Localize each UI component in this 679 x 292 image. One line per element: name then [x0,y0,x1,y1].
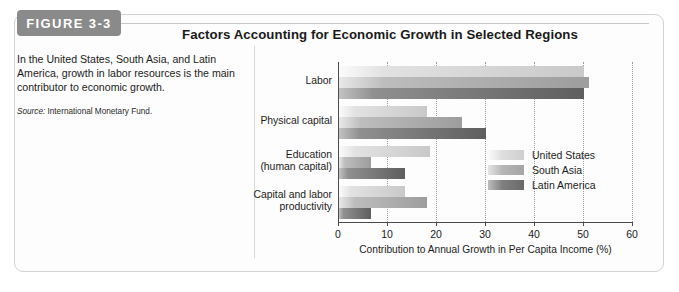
x-axis-tick-label: 60 [626,228,638,240]
x-axis-tick-label: 0 [335,228,341,240]
x-axis-tick-label: 40 [528,228,540,240]
bar [339,208,371,219]
bar [339,106,427,117]
category-label: Physical capital [172,115,332,127]
bar [339,197,427,208]
category-label: Capital and laborproductivity [172,189,332,214]
title-divider-rule [121,23,649,24]
legend-label: United States [532,149,595,161]
bar [339,186,405,197]
x-axis-tick-label: 20 [430,228,442,240]
x-axis-tick [387,222,388,226]
x-axis-tick [436,222,437,226]
legend-swatch [488,165,524,175]
source-text: International Monetary Fund. [48,107,153,116]
legend-label: Latin America [532,179,596,191]
x-axis-tick [485,222,486,226]
legend-swatch [488,150,524,160]
figure-number-badge: FIGURE 3-3 [17,10,121,36]
source-label: Source: [17,107,45,116]
bar [339,128,486,139]
x-axis-tick [632,222,633,226]
category-label-line: productivity [172,201,332,213]
bar [339,66,584,77]
bar [339,88,584,99]
category-label-line: (human capital) [172,161,332,173]
chart-plot: 0102030405060 LaborPhysical capitalEduca… [256,56,646,254]
category-label-line: Physical capital [172,115,332,127]
bar [339,157,371,168]
page-title: Factors Accounting for Economic Growth i… [120,27,640,42]
legend-item: United States [488,148,596,161]
category-label: Education(human capital) [172,149,332,174]
category-label-line: Capital and labor [172,189,332,201]
category-label-line: Labor [172,75,332,87]
gridline [632,62,633,222]
x-axis-label: Contribution to Annual Growth in Per Cap… [338,244,633,255]
x-axis-tick [534,222,535,226]
x-axis-tick-label: 50 [577,228,589,240]
legend-swatch [488,180,524,190]
category-label-line: Education [172,149,332,161]
x-axis-tick-label: 10 [381,228,393,240]
figure-caption: In the United States, South Asia, and La… [17,52,239,95]
legend-label: South Asia [532,164,582,176]
bar [339,168,405,179]
bar [339,77,589,88]
bar [339,117,462,128]
chart-legend: United StatesSouth AsiaLatin America [488,148,596,193]
bar [339,146,430,157]
x-axis-tick [338,222,339,226]
legend-item: South Asia [488,163,596,176]
x-axis-tick-label: 30 [479,228,491,240]
category-label: Labor [172,75,332,87]
x-axis-tick [583,222,584,226]
figure-root: FIGURE 3-3 Factors Accounting for Econom… [0,0,679,292]
legend-item: Latin America [488,178,596,191]
